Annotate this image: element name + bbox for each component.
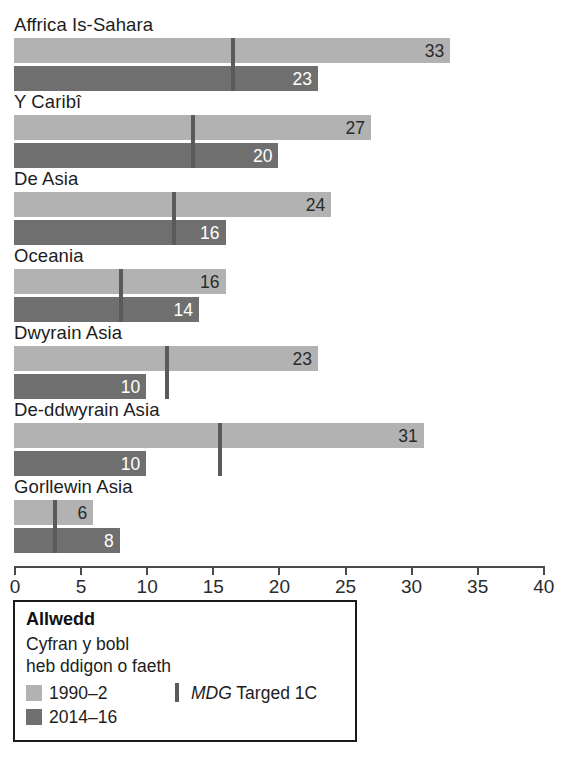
bar-new: 10 [14,374,146,399]
mdg-target-marker [53,500,57,553]
bar-value-label: 23 [293,70,312,88]
axis-tick [212,566,214,575]
bar-chart: Affrica Is-Sahara3323Y Caribî2720De Asia… [0,0,566,759]
category-label: Dwyrain Asia [14,322,122,344]
bar-pair: 3110 [0,423,566,479]
mdg-target-marker [231,38,235,91]
bar-value-label: 16 [200,224,219,242]
axis-tick [477,566,479,575]
axis-tick [146,566,148,575]
axis-tick [345,566,347,575]
mdg-target-marker [172,192,176,245]
bar-value-label: 23 [293,350,312,368]
axis-tick [411,566,413,575]
bar-value-label: 10 [121,378,140,396]
bar-new: 16 [14,220,226,245]
category-label: Y Caribî [14,91,81,113]
bar-pair: 2720 [0,115,566,171]
bar-value-label: 6 [78,504,88,522]
legend-label-mdg-target: MDG Targed 1C [191,682,317,704]
legend-label-2014: 2014–16 [49,706,117,728]
legend-label-mdg-rest: Targed 1C [232,683,317,703]
axis-tick-label: 0 [10,576,21,598]
mdg-target-marker [218,423,222,476]
axis-tick [278,566,280,575]
axis-tick-label: 35 [467,576,488,598]
legend-subtitle-line1: Cyfran y bobl [26,634,129,655]
axis-tick-label: 25 [335,576,356,598]
legend-box: Allwedd Cyfran y bobl heb ddigon o faeth… [13,600,357,742]
bar-new: 10 [14,451,146,476]
bar-pair: 2310 [0,346,566,402]
category-label: Gorllewin Asia [14,476,133,498]
bar-value-label: 24 [306,196,325,214]
bar-new: 23 [14,66,318,91]
bar-new: 14 [14,297,199,322]
legend-label-mdg-abbrev: MDG [191,683,232,703]
bar-value-label: 10 [121,455,140,473]
legend-marker-icon [175,683,179,702]
bar-new: 8 [14,528,120,553]
bar-value-label: 27 [345,119,364,137]
bar-pair: 68 [0,500,566,556]
bar-new: 20 [14,143,278,168]
axis-tick-label: 40 [533,576,554,598]
legend-subtitle-line2: heb ddigon o faeth [26,656,171,677]
category-label: De-ddwyrain Asia [14,399,160,421]
category-label: Affrica Is-Sahara [14,14,153,36]
mdg-target-marker [165,346,169,399]
axis-tick-label: 20 [269,576,290,598]
legend-swatch-1990-icon [26,685,42,701]
legend-swatch-2014-icon [26,709,42,725]
axis-tick-label: 5 [76,576,87,598]
mdg-target-marker [119,269,123,322]
category-label: De Asia [14,168,78,190]
bar-pair: 1614 [0,269,566,325]
bar-pair: 2416 [0,192,566,248]
mdg-target-marker [191,115,195,168]
bar-pair: 3323 [0,38,566,94]
bar-value-label: 8 [104,532,114,550]
legend-title: Allwedd [26,609,95,630]
axis-tick-label: 10 [137,576,158,598]
legend-label-1990: 1990–2 [49,682,107,704]
bar-value-label: 33 [425,42,444,60]
axis-tick [543,566,545,575]
axis-tick [14,566,16,575]
category-label: Oceania [14,245,84,267]
bar-value-label: 16 [200,273,219,291]
bar-value-label: 31 [398,427,417,445]
bar-value-label: 20 [253,147,272,165]
axis-tick [80,566,82,575]
bar-value-label: 14 [174,301,193,319]
axis-tick-label: 30 [401,576,422,598]
axis-tick-label: 15 [203,576,224,598]
x-axis: 0510152025303540 [0,556,566,602]
